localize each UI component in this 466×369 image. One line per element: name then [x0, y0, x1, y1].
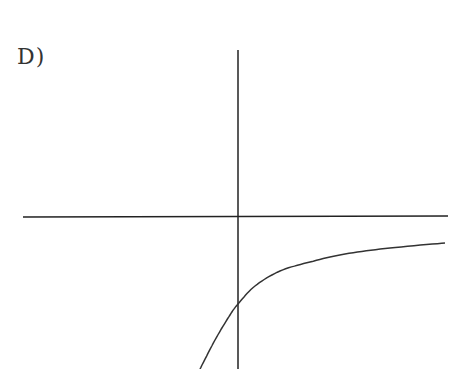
graph: [0, 0, 466, 369]
curve-line: [200, 243, 445, 369]
x-axis: [23, 216, 448, 217]
